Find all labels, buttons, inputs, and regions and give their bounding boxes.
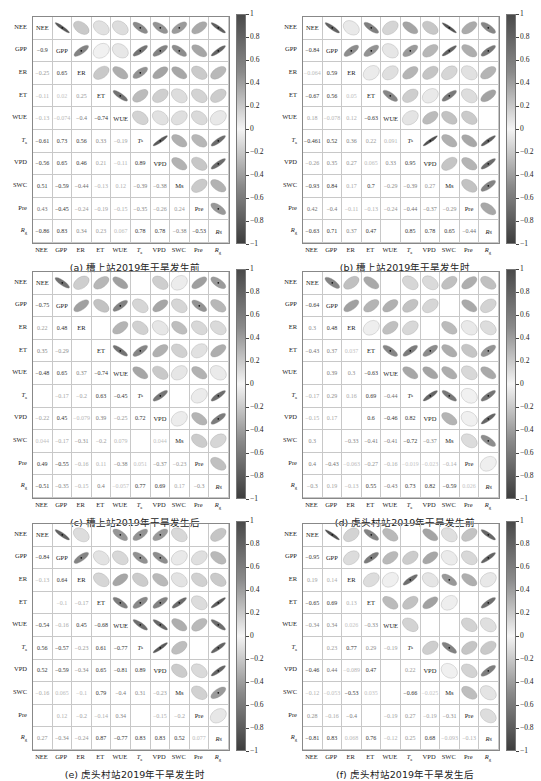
colorbar-tick-label: 0.2 xyxy=(250,357,259,365)
colorbar-tick-label: −0.2 xyxy=(520,655,534,663)
correlation-ellipse xyxy=(401,85,421,108)
row-label: ET xyxy=(3,599,27,606)
correlation-ellipse xyxy=(479,524,499,547)
correlation-value: −0.19 xyxy=(111,130,131,153)
colorbar-tick-label: 0.6 xyxy=(520,563,529,571)
correlation-value: 0.49 xyxy=(33,453,53,476)
correlation-ellipse xyxy=(131,362,151,385)
correlation-value: 0.27 xyxy=(33,727,53,750)
row-label: GPP xyxy=(3,553,27,560)
correlation-value: −0.025 xyxy=(421,682,441,705)
row-label: GPP xyxy=(273,301,297,308)
correlation-ellipse xyxy=(381,272,401,295)
correlation-ellipse xyxy=(401,614,421,637)
correlation-ellipse xyxy=(479,153,499,176)
colorbar-tick xyxy=(516,37,519,38)
correlation-ellipse xyxy=(111,317,131,340)
correlation-value: 0.42 xyxy=(303,198,323,221)
colorbar-tick xyxy=(516,269,519,270)
colorbar-tick-label: −1 xyxy=(250,240,258,248)
correlation-ellipse xyxy=(401,362,421,385)
colorbar-tick-label: 0.2 xyxy=(520,102,529,110)
correlation-ellipse xyxy=(190,272,210,295)
col-label: Pre xyxy=(189,754,208,761)
colorbar-tick xyxy=(516,14,519,15)
correlation-ellipse xyxy=(170,660,190,683)
correlation-value: −0.9 xyxy=(33,40,53,63)
correlation-value: −0.1 xyxy=(53,592,73,615)
correlation-value xyxy=(381,682,401,705)
colorbar-tick xyxy=(246,60,249,61)
colorbar-tick-label: 1 xyxy=(250,10,254,18)
correlation-value: −0.61 xyxy=(33,130,53,153)
colorbar-tick xyxy=(516,476,519,477)
correlation-value: −0.63 xyxy=(362,362,382,385)
diagonal-label: GPP xyxy=(323,295,343,318)
correlation-ellipse xyxy=(440,385,460,408)
correlation-value: −0.19 xyxy=(421,705,441,728)
correlation-value: 0.52 xyxy=(323,130,343,153)
correlation-ellipse xyxy=(190,295,210,318)
row-label: Ta xyxy=(273,644,297,653)
correlation-ellipse xyxy=(72,524,92,547)
colorbar-tick xyxy=(246,613,249,614)
correlation-value: 0.87 xyxy=(92,727,112,750)
row-label: WUE xyxy=(3,114,27,121)
col-label: SWC xyxy=(439,502,458,509)
correlation-ellipse xyxy=(460,385,480,408)
colorbar-tick-label: 0 xyxy=(250,632,254,640)
correlation-value: −0.063 xyxy=(342,453,362,476)
correlation-value: 0.22 xyxy=(33,317,53,340)
correlation-ellipse xyxy=(479,340,499,363)
correlation-value xyxy=(303,362,323,385)
correlation-value: 0.4 xyxy=(92,475,112,498)
correlation-ellipse xyxy=(362,40,382,63)
diagonal-label: Ta xyxy=(131,385,151,408)
correlation-ellipse xyxy=(479,547,499,570)
col-label: GPP xyxy=(322,754,341,761)
colorbar-tick-label: 1 xyxy=(520,10,524,18)
correlation-panel-a: NEEGPPERETWUETaVPDSWCPreRgNEEGPPERETWUET… xyxy=(0,8,270,262)
correlation-ellipse xyxy=(190,85,210,108)
correlation-ellipse xyxy=(131,547,151,570)
row-label: WUE xyxy=(273,369,297,376)
colorbar-tick-label: −0.8 xyxy=(250,217,264,225)
colorbar-tick xyxy=(246,499,249,500)
correlation-value: 0.37 xyxy=(342,220,362,243)
correlation-ellipse xyxy=(151,295,171,318)
correlation-ellipse xyxy=(460,430,480,453)
correlation-ellipse xyxy=(421,62,441,85)
correlation-value: −0.089 xyxy=(342,660,362,683)
row-label: NEE xyxy=(3,24,27,31)
correlation-value: −0.63 xyxy=(362,107,382,130)
col-label: VPD xyxy=(420,502,439,509)
correlation-value: 0.33 xyxy=(92,130,112,153)
correlation-ellipse xyxy=(381,40,401,63)
diagonal-label: ET xyxy=(92,340,112,363)
correlation-ellipse xyxy=(479,408,499,431)
correlation-value: −0.4 xyxy=(323,198,343,221)
colorbar-tick xyxy=(516,407,519,408)
diagonal-label: Rg xyxy=(479,475,499,498)
correlation-ellipse xyxy=(209,107,229,130)
colorbar-tick-label: 0.4 xyxy=(520,334,529,342)
correlation-ellipse xyxy=(401,569,421,592)
diagonal-label: Pre xyxy=(190,453,210,476)
correlation-ellipse xyxy=(401,295,421,318)
colorbar-tick xyxy=(246,384,249,385)
correlation-ellipse xyxy=(421,107,441,130)
correlation-value: −0.3 xyxy=(190,475,210,498)
correlation-ellipse xyxy=(460,614,480,637)
colorbar-tick xyxy=(246,476,249,477)
row-label: VPD xyxy=(3,159,27,166)
diagonal-label: ET xyxy=(362,340,382,363)
correlation-value: −0.35 xyxy=(53,475,73,498)
row-label: Pre xyxy=(273,205,297,212)
correlation-ellipse xyxy=(421,85,441,108)
correlation-value: 0.27 xyxy=(421,175,441,198)
correlation-ellipse xyxy=(190,317,210,340)
correlation-value: 0.63 xyxy=(92,385,112,408)
col-label: NEE xyxy=(302,502,321,509)
correlation-panel-e: NEEGPPERETWUETaVPDSWCPreRgNEEGPPERETWUET… xyxy=(0,515,270,769)
correlation-value xyxy=(303,637,323,660)
